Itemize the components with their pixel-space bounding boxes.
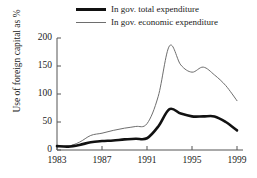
legend-label-total-expenditure: In gov. total expenditure [111,4,199,15]
y-tick-label: 200 [22,33,52,43]
x-tick-label: 1983 [40,156,74,166]
legend-item-economic-expenditure: In gov. economic expenditure [76,17,218,28]
legend-label-economic-expenditure: In gov. economic expenditure [111,17,218,28]
x-tick-label: 1995 [175,156,209,166]
series-line-total-expenditure [57,109,237,147]
chart-legend: In gov. total expenditure In gov. econom… [76,4,218,28]
legend-swatch-total-expenditure [76,8,106,10]
chart-container: In gov. total expenditure In gov. econom… [0,0,257,178]
y-tick-label: 100 [22,89,52,99]
y-tick-label: 50 [22,117,52,127]
legend-swatch-economic-expenditure [76,22,106,23]
x-tick-label: 1987 [85,156,119,166]
y-tick-label: 150 [22,61,52,71]
y-axis-title: Use of foreign capital as % [12,0,22,126]
y-tick-label: 0 [22,145,52,155]
x-tick-label: 1999 [220,156,254,166]
series-line-economic-expenditure [57,45,237,146]
plot-area [57,38,237,150]
legend-item-total-expenditure: In gov. total expenditure [76,4,218,15]
chart-svg [57,38,237,150]
x-tick-label: 1991 [130,156,164,166]
